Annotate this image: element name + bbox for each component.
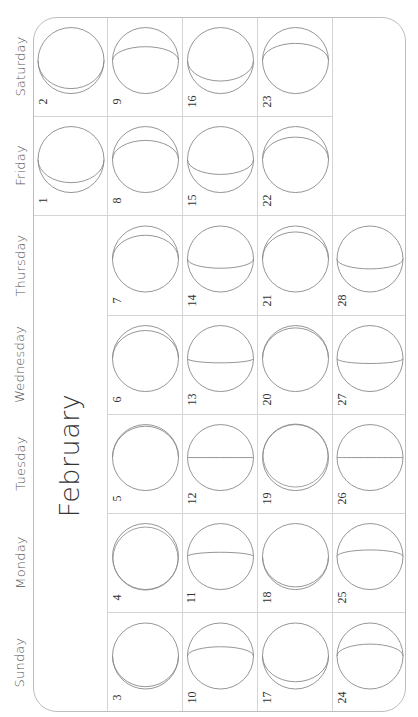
- day-cell-21: 21: [257, 215, 332, 315]
- day-cell-11: 11: [182, 513, 257, 612]
- day-cell-24: 24: [332, 612, 406, 712]
- day-number-text: 23: [260, 95, 275, 107]
- day-cell-25: 25: [332, 513, 406, 612]
- day-number-text: 14: [185, 294, 200, 306]
- day-number: 20: [259, 388, 275, 410]
- weekday-text: Tuesday: [13, 436, 28, 490]
- day-cell-27: 27: [332, 315, 406, 414]
- day-number-text: 1: [36, 197, 51, 203]
- day-cell-23: 23: [257, 17, 332, 116]
- day-number-text: 4: [110, 594, 125, 600]
- day-number: 26: [334, 487, 350, 509]
- day-number-text: 7: [110, 297, 125, 303]
- day-number: 8: [109, 189, 125, 211]
- day-number-text: 20: [260, 393, 275, 405]
- day-cell-17: 17: [257, 612, 332, 712]
- day-number-text: 24: [335, 691, 350, 703]
- day-cell-19: 19: [257, 414, 332, 513]
- day-cell-3: 3: [107, 612, 182, 712]
- weekday-text: Saturday: [13, 36, 28, 96]
- weekday-label-monday: Monday: [0, 513, 40, 612]
- day-cell-10: 10: [182, 612, 257, 712]
- day-cell-7: 7: [107, 215, 182, 315]
- day-number-text: 8: [110, 197, 125, 203]
- day-number: 1: [35, 189, 51, 211]
- day-number: 24: [334, 686, 350, 708]
- weekday-text: Sunday: [13, 637, 28, 687]
- day-number: 5: [109, 487, 125, 509]
- day-number: 15: [184, 189, 200, 211]
- month-title-text: February: [55, 393, 86, 517]
- day-number-text: 21: [260, 294, 275, 306]
- day-number: 6: [109, 388, 125, 410]
- day-cell-16: 16: [182, 17, 257, 116]
- day-cell-1: 1: [33, 116, 107, 215]
- moon-phase-calendar: Saturday Friday Thursday Wednesday Tuesd…: [0, 0, 418, 717]
- day-number-text: 28: [335, 294, 350, 306]
- day-number: 11: [184, 586, 200, 608]
- day-number-text: 15: [185, 194, 200, 206]
- day-number-text: 19: [260, 492, 275, 504]
- day-number-text: 17: [260, 691, 275, 703]
- day-number: 27: [334, 388, 350, 410]
- day-number: 2: [35, 90, 51, 112]
- day-number: 22: [259, 189, 275, 211]
- day-number: 3: [109, 686, 125, 708]
- day-number-text: 13: [185, 393, 200, 405]
- day-number-text: 26: [335, 492, 350, 504]
- day-number-text: 9: [110, 98, 125, 104]
- day-number-text: 2: [36, 98, 51, 104]
- day-cell-12: 12: [182, 414, 257, 513]
- day-cell-5: 5: [107, 414, 182, 513]
- day-number-text: 3: [110, 694, 125, 700]
- weekday-label-thursday: Thursday: [0, 215, 40, 315]
- day-cell-18: 18: [257, 513, 332, 612]
- day-cell-22: 22: [257, 116, 332, 215]
- day-number-text: 18: [260, 591, 275, 603]
- day-cell-20: 20: [257, 315, 332, 414]
- day-number: 7: [109, 289, 125, 311]
- day-number-text: 10: [185, 691, 200, 703]
- day-cell-13: 13: [182, 315, 257, 414]
- day-number: 14: [184, 289, 200, 311]
- day-cell-28: 28: [332, 215, 406, 315]
- day-number: 16: [184, 90, 200, 112]
- day-number: 18: [259, 586, 275, 608]
- weekday-label-wednesday: Wednesday: [0, 315, 40, 414]
- month-title: February: [40, 360, 100, 550]
- weekday-label-sunday: Sunday: [0, 612, 40, 712]
- day-cell-15: 15: [182, 116, 257, 215]
- day-number: 25: [334, 586, 350, 608]
- day-number-text: 11: [185, 591, 200, 603]
- day-cell-6: 6: [107, 315, 182, 414]
- day-number-text: 25: [335, 591, 350, 603]
- weekday-label-tuesday: Tuesday: [0, 414, 40, 513]
- day-number: 17: [259, 686, 275, 708]
- day-cell-26: 26: [332, 414, 406, 513]
- day-number-text: 22: [260, 194, 275, 206]
- day-cell-14: 14: [182, 215, 257, 315]
- day-number: 9: [109, 90, 125, 112]
- weekday-text: Monday: [13, 536, 28, 589]
- day-number: 12: [184, 487, 200, 509]
- day-cell-9: 9: [107, 17, 182, 116]
- day-cell-4: 4: [107, 513, 182, 612]
- day-number-text: 5: [110, 495, 125, 501]
- day-number: 28: [334, 289, 350, 311]
- day-number: 10: [184, 686, 200, 708]
- day-cell-2: 2: [33, 17, 107, 116]
- day-number: 21: [259, 289, 275, 311]
- day-number-text: 6: [110, 396, 125, 402]
- day-number: 19: [259, 487, 275, 509]
- weekday-text: Wednesday: [13, 326, 28, 403]
- day-number: 13: [184, 388, 200, 410]
- day-cell-8: 8: [107, 116, 182, 215]
- day-number: 23: [259, 90, 275, 112]
- weekday-text: Friday: [13, 145, 28, 186]
- day-number-text: 16: [185, 95, 200, 107]
- weekday-text: Thursday: [13, 234, 28, 296]
- day-number-text: 27: [335, 393, 350, 405]
- day-number: 4: [109, 586, 125, 608]
- day-number-text: 12: [185, 492, 200, 504]
